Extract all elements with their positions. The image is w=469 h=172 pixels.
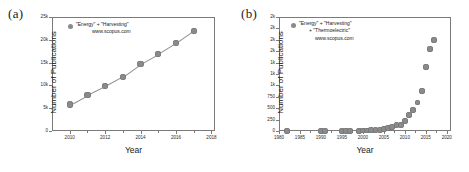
x-tick-mark (279, 131, 280, 134)
y-tick-mark (49, 40, 52, 41)
panel-b-legend-line-1: "Energy" + "Harvesting" (299, 20, 354, 27)
data-point (419, 88, 425, 94)
x-tick-mark (300, 131, 301, 134)
x-tick-mark (426, 131, 427, 134)
x-tick-minor (310, 131, 311, 133)
panel-b-y-axis-label: Number of Publications (276, 16, 285, 130)
x-tick-mark (405, 131, 406, 134)
y-tick-mark (276, 63, 279, 64)
data-point (423, 64, 429, 70)
data-point (191, 28, 197, 34)
data-point (347, 128, 353, 134)
panel-b-legend-line-2: + "Thermoelectric" (299, 27, 354, 34)
y-tick-mark (276, 108, 279, 109)
y-tick-label: 0 (253, 128, 275, 133)
y-tick-label: 15k (26, 60, 48, 65)
data-point (84, 92, 90, 98)
x-tick-minor (331, 131, 332, 133)
y-tick-mark (276, 51, 279, 52)
x-tick-minor (436, 131, 437, 133)
y-tick-label: 750 (253, 94, 275, 99)
x-tick-label: 2012 (93, 135, 117, 140)
panel-a-x-axis-label: Year (52, 145, 215, 155)
panel-b-legend-line-3: www.scopus.com (299, 35, 354, 42)
y-tick-mark (276, 85, 279, 86)
panel-b-x-axis-label: Year (279, 145, 451, 155)
x-tick-minor (194, 131, 195, 133)
y-tick-mark (276, 97, 279, 98)
y-tick-mark (49, 131, 52, 132)
y-tick-mark (276, 28, 279, 29)
x-tick-minor (158, 131, 159, 133)
x-tick-mark (176, 131, 177, 134)
y-tick-mark (49, 17, 52, 18)
panel-a: (a) Number of Publications Year "Energy"… (0, 0, 234, 172)
y-tick-label: 2k (253, 14, 275, 19)
y-tick-label: 0 (26, 128, 48, 133)
panel-a-legend-line-2: www.scopus.com (76, 28, 131, 35)
panel-a-label: (a) (8, 6, 23, 22)
x-tick-mark (447, 131, 448, 134)
y-tick-mark (276, 40, 279, 41)
x-tick-mark (70, 131, 71, 134)
panel-b-legend: "Energy" + "Harvesting" + "Thermoelectri… (299, 20, 354, 42)
y-tick-mark (276, 74, 279, 75)
y-tick-label: 250 (253, 117, 275, 122)
y-tick-label: 1k (253, 82, 275, 87)
panel-a-y-axis-label: Number of Publications (49, 16, 58, 130)
data-point (137, 61, 143, 67)
x-tick-label: 2014 (129, 135, 153, 140)
y-tick-label: 2k (253, 37, 275, 42)
y-tick-mark (49, 85, 52, 86)
x-tick-minor (415, 131, 416, 133)
x-tick-mark (211, 131, 212, 134)
y-tick-mark (49, 108, 52, 109)
x-tick-label: 2020 (435, 135, 459, 140)
panel-b-legend-marker (291, 23, 296, 28)
x-tick-minor (394, 131, 395, 133)
panel-a-legend-marker (68, 24, 73, 29)
y-tick-label: 2k (253, 25, 275, 30)
y-tick-label: 10k (26, 82, 48, 87)
y-tick-mark (276, 17, 279, 18)
x-tick-mark (105, 131, 106, 134)
x-tick-mark (141, 131, 142, 134)
data-point (406, 112, 412, 118)
data-point (402, 118, 408, 124)
x-tick-minor (123, 131, 124, 133)
y-tick-mark (49, 63, 52, 64)
y-tick-label: 1k (253, 71, 275, 76)
data-point (431, 37, 437, 43)
y-tick-label: 1k (253, 60, 275, 65)
x-tick-label: 2010 (58, 135, 82, 140)
panel-b: (b) Number of Publications Year "Energy"… (235, 0, 469, 172)
x-tick-minor (87, 131, 88, 133)
x-tick-label: 2016 (164, 135, 188, 140)
y-tick-label: 500 (253, 105, 275, 110)
panel-a-legend: "Energy" + "Harvesting" www.scopus.com (76, 21, 131, 36)
figure-publications-trends: (a) Number of Publications Year "Energy"… (0, 0, 469, 172)
y-tick-label: 20k (26, 37, 48, 42)
data-point (322, 128, 328, 134)
data-point (67, 101, 73, 107)
data-point (120, 74, 126, 80)
y-tick-label: 2k (253, 48, 275, 53)
y-tick-mark (276, 120, 279, 121)
y-tick-label: 25k (26, 14, 48, 19)
y-tick-label: 5k (26, 105, 48, 110)
x-tick-label: 2018 (199, 135, 223, 140)
panel-a-legend-line-1: "Energy" + "Harvesting" (76, 21, 131, 28)
